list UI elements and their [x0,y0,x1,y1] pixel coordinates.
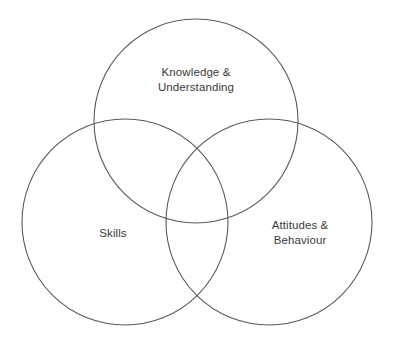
circle-label-knowledge-understanding: Knowledge & Understanding [126,65,266,94]
circle-skills [22,119,228,325]
circle-label-attitudes-behaviour: Attitudes & Behaviour [250,218,350,247]
circle-knowledge-understanding [94,19,298,223]
circle-label-skills: Skills [63,226,163,241]
venn-diagram-canvas [0,0,393,349]
venn-diagram: Knowledge & Understanding Skills Attitud… [0,0,393,349]
